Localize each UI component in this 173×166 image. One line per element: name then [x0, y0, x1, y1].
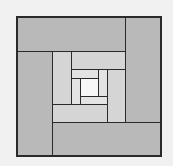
- rect-middle-bottom: [52, 104, 108, 123]
- rect-middle-top: [71, 51, 126, 70]
- rect-middle-right: [107, 69, 126, 123]
- rect-middle-left: [52, 51, 72, 105]
- rect-inner-bottom: [80, 96, 108, 105]
- rect-outer-right: [125, 16, 162, 123]
- rect-center-square: [80, 78, 99, 97]
- rect-outer-left: [16, 51, 53, 157]
- rect-outer-top: [16, 16, 126, 52]
- rect-outer-bottom: [52, 122, 162, 157]
- diagram-canvas: [0, 0, 173, 166]
- rect-inner-right: [98, 69, 108, 97]
